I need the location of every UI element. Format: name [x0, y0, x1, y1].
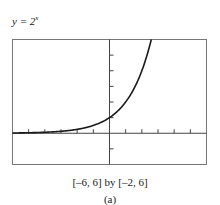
window-label: [–6, 6] by [–2, 6]: [0, 176, 220, 188]
graph-plot: [0, 0, 220, 205]
subfigure-label: (a): [0, 193, 220, 205]
